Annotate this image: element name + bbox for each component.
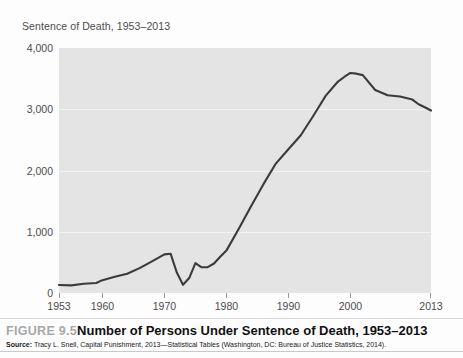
- x-axis-tick-label: 2000: [339, 300, 362, 312]
- y-axis-tick-label: 4,000: [27, 42, 53, 54]
- x-axis-tick-label: 1990: [277, 300, 300, 312]
- y-axis-tick-label: 1,000: [27, 226, 53, 238]
- y-axis-tick-label: 2,000: [27, 165, 53, 177]
- x-axis-tick-mark: [59, 293, 60, 298]
- y-axis-labels: 01,0002,0003,0004,000: [0, 48, 53, 293]
- y-axis-tick-label: 3,000: [27, 103, 53, 115]
- x-axis-tick-mark: [288, 293, 289, 298]
- source-text: Tracy L. Snell, Capital Punishment, 2013…: [32, 341, 386, 348]
- y-axis-tick-label: 0: [47, 287, 53, 299]
- data-series-line: [59, 48, 431, 293]
- x-axis-tick-mark: [102, 293, 103, 298]
- x-axis-tick-label: 2013: [419, 300, 442, 312]
- caption-block: FIGURE 9.5Number of Persons Under Senten…: [0, 318, 463, 352]
- figure-caption: FIGURE 9.5Number of Persons Under Senten…: [0, 319, 463, 338]
- x-axis-tick-label: 1970: [153, 300, 176, 312]
- x-axis-tick-label: 1980: [215, 300, 238, 312]
- source-note: Source: Tracy L. Snell, Capital Punishme…: [0, 338, 463, 348]
- x-axis-tick-mark: [226, 293, 227, 298]
- x-axis-tick-mark: [430, 293, 431, 298]
- x-axis-tick-mark: [164, 293, 165, 298]
- x-axis-tick-label: 1960: [91, 300, 114, 312]
- plot-wrapper: [59, 48, 431, 293]
- figure-container: Sentence of Death, 1953–2013 01,0002,000…: [0, 0, 463, 358]
- x-axis-tick-label: 1953: [47, 300, 70, 312]
- chart-title: Sentence of Death, 1953–2013: [22, 20, 170, 32]
- figure-number: FIGURE 9.5: [6, 324, 77, 338]
- source-label: Source:: [6, 341, 32, 348]
- x-axis-labels: 1953196019701980199020002013: [59, 293, 431, 317]
- figure-caption-text: Number of Persons Under Sentence of Deat…: [77, 323, 427, 338]
- caption-bottom-rule: [0, 351, 463, 352]
- x-axis-tick-mark: [350, 293, 351, 298]
